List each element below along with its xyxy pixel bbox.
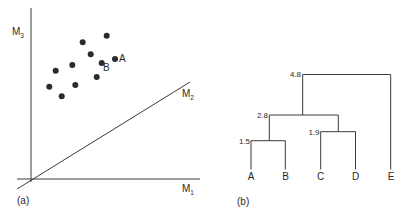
- data-point: [88, 51, 94, 57]
- data-point: [80, 39, 86, 45]
- data-point: [69, 62, 75, 68]
- data-point: [104, 33, 110, 39]
- panel-a-scatter: M3 M2 M1 A B (a): [12, 8, 200, 206]
- height-label-1-9: 1.9: [308, 128, 320, 137]
- data-point: [46, 84, 52, 90]
- merge-bracket-all: [303, 75, 391, 170]
- panel-b-dendrogram: 4.8 2.8 1.5 1.9 A B C D E (b): [237, 70, 395, 207]
- height-label-4-8: 4.8: [290, 70, 302, 79]
- point-label-b: B: [103, 62, 110, 73]
- data-point: [59, 93, 65, 99]
- m2-axis: [17, 82, 190, 189]
- merge-bracket-abcd: [269, 115, 338, 141]
- data-point: [94, 74, 100, 80]
- merge-bracket-ab: [251, 141, 285, 170]
- merge-bracket-cd: [321, 132, 356, 170]
- leaf-label-a: A: [248, 171, 255, 182]
- data-point-a: [112, 56, 118, 62]
- height-label-2-8: 2.8: [257, 111, 269, 120]
- data-point: [72, 82, 78, 88]
- leaf-label-e: E: [388, 171, 395, 182]
- leaf-label-b: B: [282, 171, 289, 182]
- panel-a-caption: (a): [17, 195, 29, 206]
- figure-canvas: M3 M2 M1 A B (a) 4.8 2.8 1.5: [0, 0, 405, 217]
- m2-axis-label: M2: [182, 88, 194, 101]
- leaf-label-c: C: [317, 171, 324, 182]
- m3-axis-label: M3: [12, 26, 24, 39]
- m1-axis-label: M1: [182, 183, 194, 196]
- point-label-a: A: [119, 53, 126, 64]
- leaf-label-d: D: [352, 171, 359, 182]
- panel-b-caption: (b): [237, 196, 249, 207]
- data-point: [53, 68, 59, 74]
- height-label-1-5: 1.5: [239, 137, 251, 146]
